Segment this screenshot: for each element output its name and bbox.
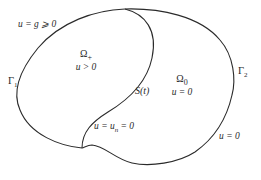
free-boundary-condition-label: u = un = 0 xyxy=(94,121,134,135)
omega-zero-condition: u = 0 xyxy=(166,87,198,98)
free-boundary-text: S(t) xyxy=(135,85,149,96)
gamma2-label: Γ2 xyxy=(238,66,248,80)
boundary-condition-left-label: u = g ⩾ 0 xyxy=(18,19,56,29)
omega-plus-subscript: + xyxy=(87,53,92,62)
omega-zero-name: Ω0 xyxy=(166,73,198,88)
boundary-condition-left-text: u = g ⩾ 0 xyxy=(18,19,56,29)
gamma1-label: Γ1 xyxy=(8,76,18,90)
omega-plus-region-label: Ω+ u > 0 xyxy=(70,48,102,73)
omega-zero-region-label: Ω0 u = 0 xyxy=(166,73,198,98)
boundary-condition-right-text: u = 0 xyxy=(219,131,240,141)
free-boundary-condition-text: u = u xyxy=(94,121,115,131)
omega-plus-condition: u > 0 xyxy=(70,62,102,73)
omega-zero-subscript: 0 xyxy=(184,78,188,87)
gamma1-subscript: 1 xyxy=(14,81,18,89)
boundary-condition-right-label: u = 0 xyxy=(219,131,240,141)
gamma2-subscript: 2 xyxy=(244,71,248,79)
omega-plus-name: Ω+ xyxy=(70,48,102,63)
omega-zero-symbol: Ω xyxy=(176,73,183,84)
free-boundary-condition-tail: = 0 xyxy=(118,121,134,131)
outer-boundary-curve xyxy=(17,9,234,165)
free-boundary-label: S(t) xyxy=(135,86,149,96)
